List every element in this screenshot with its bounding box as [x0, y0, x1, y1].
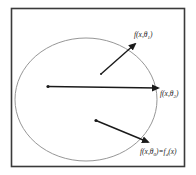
label-text: f(x,θ — [160, 89, 173, 98]
label-f-theta2: f(x,θ2) — [160, 90, 178, 99]
arrow-theta0 — [94, 119, 148, 142]
label-text: f(x,θ — [140, 147, 153, 156]
start-point-theta0 — [94, 119, 97, 122]
start-point-theta2 — [46, 85, 49, 88]
label-f-theta1: f(x,θ1) — [134, 31, 152, 40]
arrow-theta2 — [46, 85, 158, 88]
label-text: )=f — [156, 147, 166, 156]
label-text: ) — [150, 30, 153, 39]
start-point-theta1 — [100, 73, 102, 75]
label-text: ) — [176, 89, 179, 98]
label-text: f(x,θ — [134, 30, 147, 39]
parameter-region-ellipse — [15, 38, 157, 161]
arrow-theta1 — [100, 44, 135, 75]
label-text: (x) — [168, 147, 176, 156]
label-f-theta0-equals-fd: f(x,θ0)=fd(x) — [140, 148, 176, 157]
